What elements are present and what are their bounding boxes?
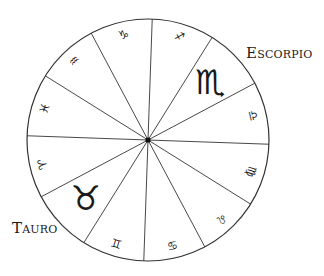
- taurus-glyph-icon: ♉: [71, 178, 101, 218]
- libra-glyph-icon: ♎: [245, 109, 261, 123]
- virgo-glyph-icon: ♍: [243, 164, 260, 178]
- leo-glyph-icon: ♌: [213, 210, 230, 228]
- gemini-glyph-icon: ♊: [109, 235, 123, 252]
- spoke-line: [144, 140, 148, 261]
- cancer-glyph-icon: ♋: [165, 237, 179, 253]
- spoke-line: [91, 33, 148, 140]
- label-tauro: Tauro: [12, 219, 58, 237]
- aquarius-glyph-icon: ♒: [66, 52, 83, 70]
- spoke-line: [45, 76, 148, 140]
- spoke-line: [148, 19, 152, 140]
- spoke-line: [27, 136, 148, 140]
- pisces-glyph-icon: ♓: [36, 101, 53, 115]
- capricorn-glyph-icon: ♑: [117, 27, 131, 43]
- sagittarius-glyph-icon: ♐: [173, 29, 186, 44]
- center-dot: [145, 137, 150, 142]
- label-escorpio: Escorpio: [246, 44, 313, 62]
- spoke-line: [148, 140, 269, 144]
- aries-glyph-icon: ♈: [35, 157, 51, 171]
- spoke-line: [148, 140, 251, 204]
- scorpio-glyph-icon: ♏: [195, 62, 225, 102]
- spoke-line: [148, 140, 205, 247]
